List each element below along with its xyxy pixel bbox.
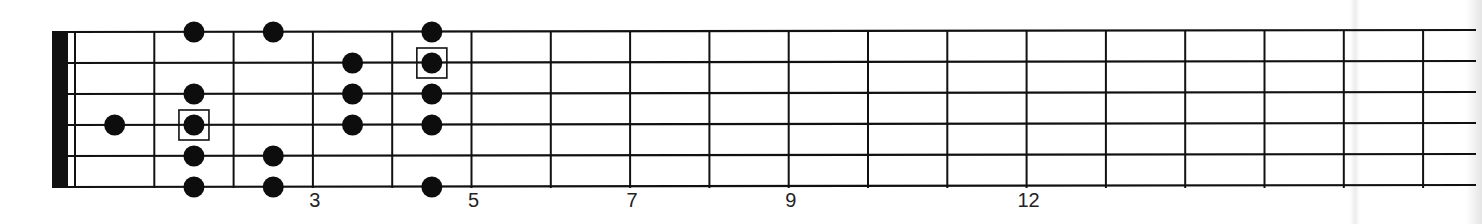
fret-number-label: 3 xyxy=(309,189,320,211)
note-dot xyxy=(104,115,125,136)
fret-number-label: 7 xyxy=(627,189,638,211)
root-note-dot xyxy=(421,53,442,74)
note-dot xyxy=(183,177,204,198)
note-dot xyxy=(421,115,442,136)
note-dot xyxy=(183,146,204,167)
fret-number-label: 9 xyxy=(785,189,796,211)
note-dot xyxy=(263,146,284,167)
note-dot xyxy=(421,177,442,198)
note-dots xyxy=(104,22,447,198)
note-dot xyxy=(183,84,204,105)
fretboard-diagram: 357912 xyxy=(0,0,1482,224)
fret-number-label: 5 xyxy=(468,189,479,211)
root-note-dot xyxy=(183,115,204,136)
fret-number-labels: 357912 xyxy=(309,189,1039,211)
note-dot xyxy=(263,177,284,198)
note-dot xyxy=(421,22,442,43)
note-dot xyxy=(421,84,442,105)
nut xyxy=(52,31,68,188)
note-dot xyxy=(342,115,363,136)
note-dot xyxy=(183,22,204,43)
note-dot xyxy=(342,84,363,105)
note-dot xyxy=(263,22,284,43)
note-dot xyxy=(342,53,363,74)
fret-number-label: 12 xyxy=(1017,189,1039,211)
